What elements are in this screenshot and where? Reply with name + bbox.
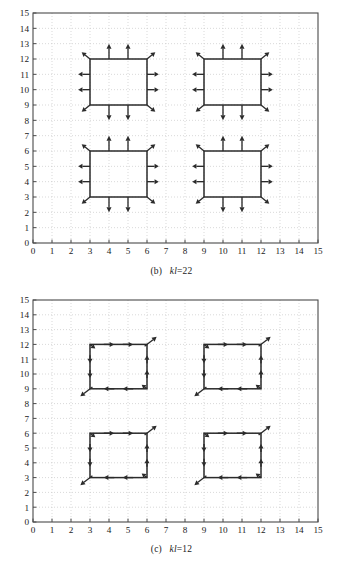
arrow-head [123, 475, 128, 480]
arrow-head [202, 373, 207, 378]
arrow-head [269, 164, 273, 169]
arrow-head [88, 447, 93, 452]
axis-ticks: 0123456789101112131415012345678910111213… [20, 8, 323, 256]
arrow-head [220, 115, 225, 120]
x-tick-label: 10 [218, 525, 228, 535]
square-outline [90, 344, 147, 388]
panel-c-kl-12: 0123456789101112131415012345678910111213… [0, 290, 343, 573]
x-tick-label: 1 [50, 246, 55, 256]
y-tick-label: 5 [24, 443, 29, 453]
panel-b-kl-22: 0123456789101112131415012345678910111213… [0, 0, 343, 290]
arrow-head [240, 136, 245, 141]
arrow-shaft [199, 55, 204, 59]
square-outline [204, 433, 261, 477]
field-square [194, 426, 270, 485]
y-tick-label: 6 [24, 429, 29, 439]
x-tick-label: 14 [294, 525, 304, 535]
y-tick-label: 0 [24, 517, 29, 527]
arrow-head [126, 136, 131, 141]
plot-area-c: 0123456789101112131415012345678910111213… [0, 290, 343, 540]
x-tick-label: 12 [256, 246, 266, 256]
arrow-head [218, 475, 223, 480]
x-tick-label: 13 [275, 246, 285, 256]
square-outline [90, 59, 147, 105]
caption-c-var: kl [170, 544, 177, 554]
arrow-head [155, 179, 159, 184]
plot-frame [33, 300, 318, 522]
x-tick-label: 5 [126, 246, 131, 256]
y-tick-label: 5 [24, 162, 29, 172]
arrow-head [237, 475, 242, 480]
arrow-head [269, 179, 273, 184]
arrow-shaft [259, 340, 267, 347]
arrow-head [129, 342, 134, 347]
arrow-head [110, 431, 115, 436]
x-tick-label: 7 [164, 525, 169, 535]
y-tick-label: 8 [24, 399, 29, 409]
arrow-head [240, 207, 245, 212]
caption-c-value: =12 [177, 544, 192, 554]
arrow-head [259, 370, 264, 375]
y-tick-label: 3 [24, 192, 29, 202]
arrow-head [224, 342, 229, 347]
x-tick-label: 4 [107, 525, 112, 535]
arrow-head [269, 87, 273, 92]
x-tick-label: 6 [145, 246, 150, 256]
arrow-head [110, 342, 115, 347]
arrow-head [106, 44, 111, 49]
y-tick-label: 6 [24, 146, 29, 156]
x-tick-label: 10 [218, 246, 228, 256]
arrow-shaft [85, 197, 90, 201]
x-tick-label: 0 [31, 246, 36, 256]
arrow-shaft [198, 476, 206, 483]
y-tick-label: 4 [24, 458, 29, 468]
y-tick-label: 7 [24, 131, 29, 141]
caption-c-prefix: (c) [151, 544, 162, 554]
x-tick-label: 7 [164, 246, 169, 256]
y-tick-label: 7 [24, 414, 29, 424]
arrow-head [106, 207, 111, 212]
arrow-head [106, 136, 111, 141]
arrow-shaft [199, 197, 204, 201]
square-outline [90, 433, 147, 477]
arrow-head [78, 179, 82, 184]
arrow-head [202, 462, 207, 467]
y-tick-label: 14 [20, 310, 30, 320]
square-outline [204, 151, 261, 197]
field-square [80, 337, 156, 396]
arrow-head [129, 431, 134, 436]
y-tick-label: 11 [20, 70, 29, 80]
arrow-head [155, 87, 159, 92]
arrow-head [192, 72, 196, 77]
arrow-shaft [147, 147, 152, 151]
arrow-shaft [259, 428, 267, 435]
arrow-head [106, 115, 111, 120]
y-tick-label: 14 [20, 24, 30, 34]
y-tick-label: 13 [20, 325, 30, 335]
x-tick-label: 15 [313, 525, 323, 535]
arrow-head [88, 462, 93, 467]
arrow-head [145, 459, 150, 464]
arrow-shaft [261, 197, 266, 201]
x-tick-label: 2 [69, 246, 74, 256]
x-tick-label: 9 [202, 246, 207, 256]
arrow-head [243, 342, 248, 347]
arrow-head [240, 115, 245, 120]
square-group [78, 44, 273, 213]
x-tick-label: 3 [88, 246, 93, 256]
arrow-head [259, 444, 264, 449]
x-tick-label: 0 [31, 525, 36, 535]
arrow-shaft [261, 147, 266, 151]
arrow-head [259, 355, 264, 360]
arrow-head [145, 355, 150, 360]
square-outline [204, 344, 261, 388]
arrow-head [88, 373, 93, 378]
x-tick-label: 1 [50, 525, 55, 535]
caption-c: (c) kl=12 [0, 544, 343, 554]
arrow-head [104, 386, 109, 391]
y-tick-label: 4 [24, 177, 29, 187]
y-tick-label: 9 [24, 384, 29, 394]
arrow-head [259, 459, 264, 464]
y-tick-label: 9 [24, 100, 29, 110]
arrow-head [126, 115, 131, 120]
